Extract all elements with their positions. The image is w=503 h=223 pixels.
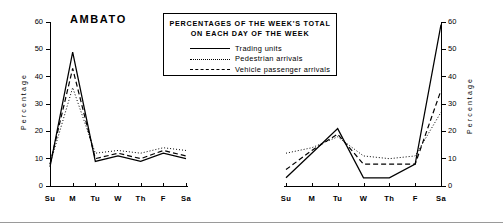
y-tick-40 xyxy=(442,76,446,77)
y-tick-20 xyxy=(442,131,446,132)
x-tick-label-Sa: Sa xyxy=(181,194,191,203)
legend-swatch-solid-line-icon xyxy=(190,45,230,52)
x-tick-label-W: W xyxy=(114,194,122,203)
y-tick-label-0: 0 xyxy=(448,181,452,190)
x-tick-label-M: M xyxy=(308,194,315,203)
series-lines-latacunga xyxy=(286,22,441,186)
y-tick-0 xyxy=(442,186,446,187)
x-tick-label-Tu: Tu xyxy=(91,194,101,203)
y-tick-60 xyxy=(442,22,446,23)
page-bottom-rule xyxy=(0,222,503,223)
x-tick-label-F: F xyxy=(161,194,166,203)
x-tick-label-F: F xyxy=(413,194,418,203)
series-line-dashed xyxy=(286,90,441,169)
y-axis-label-right: Percentage xyxy=(466,69,473,143)
y-tick-label-10: 10 xyxy=(448,154,456,163)
x-tick-label-Su: Su xyxy=(45,194,56,203)
figure-root: AMBATO Percentage 0102030405060 SuMTuWTh… xyxy=(0,0,503,223)
y-tick-label-20: 20 xyxy=(448,126,456,135)
legend-swatch-dotted-line-icon xyxy=(190,55,230,62)
plot-area-latacunga xyxy=(286,22,441,186)
x-tick-Sa xyxy=(186,183,187,187)
x-tick-label-Su: Su xyxy=(281,194,292,203)
x-tick-label-Th: Th xyxy=(384,194,394,203)
x-tick-label-W: W xyxy=(360,194,368,203)
x-tick-label-Th: Th xyxy=(136,194,146,203)
series-line-dashed xyxy=(50,68,186,164)
x-tick-label-Tu: Tu xyxy=(333,194,343,203)
x-tick-label-Sa: Sa xyxy=(436,194,446,203)
y-tick-label-0: 0 xyxy=(24,181,43,190)
legend-swatch-dashed-line-icon xyxy=(190,66,230,73)
y-tick-label-40: 40 xyxy=(24,72,43,81)
x-tick-Sa xyxy=(441,183,442,187)
y-tick-label-40: 40 xyxy=(448,72,456,81)
y-tick-50 xyxy=(442,49,446,50)
y-tick-label-10: 10 xyxy=(24,154,43,163)
y-tick-30 xyxy=(442,104,446,105)
y-tick-label-20: 20 xyxy=(24,126,43,135)
y-tick-label-60: 60 xyxy=(24,17,43,26)
y-tick-label-50: 50 xyxy=(24,44,43,53)
y-tick-label-30: 30 xyxy=(448,99,456,108)
chart-panel-latacunga: LATACUNGA Percentage 0102030405060 SuMTu… xyxy=(250,0,503,223)
x-tick-label-M: M xyxy=(69,194,76,203)
series-line-dotted xyxy=(50,88,186,165)
y-tick-label-60: 60 xyxy=(448,17,456,26)
y-tick-label-50: 50 xyxy=(448,44,456,53)
y-tick-10 xyxy=(442,158,446,159)
series-line-solid xyxy=(286,25,441,178)
y-tick-label-30: 30 xyxy=(24,99,43,108)
